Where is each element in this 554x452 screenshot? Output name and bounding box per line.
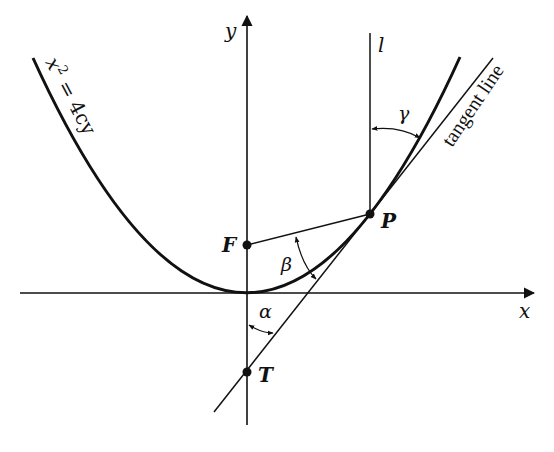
point-f-label: F	[221, 233, 238, 257]
point-f	[243, 241, 252, 250]
x-axis-label: x	[519, 299, 530, 323]
parabola-diagram: y x l F P T α β γ x2 = 4cy tangent line	[0, 0, 554, 452]
angle-alpha-label: α	[259, 300, 272, 322]
angle-beta-arc	[296, 237, 316, 279]
focal-segment-fp	[247, 214, 370, 245]
point-p-label: P	[380, 209, 397, 233]
tangent-line-label: tangent line	[437, 60, 509, 151]
svg-text:tangent line: tangent line	[437, 60, 509, 151]
point-t	[243, 368, 252, 377]
angle-alpha-arc	[249, 325, 273, 333]
tangent-line	[214, 58, 493, 412]
line-l-label: l	[378, 33, 384, 57]
point-p	[366, 210, 375, 219]
angle-gamma-arc	[372, 128, 420, 138]
y-axis-label: y	[224, 19, 237, 43]
point-t-label: T	[258, 363, 275, 387]
angle-beta-label: β	[280, 253, 292, 275]
angle-gamma-label: γ	[398, 102, 410, 124]
